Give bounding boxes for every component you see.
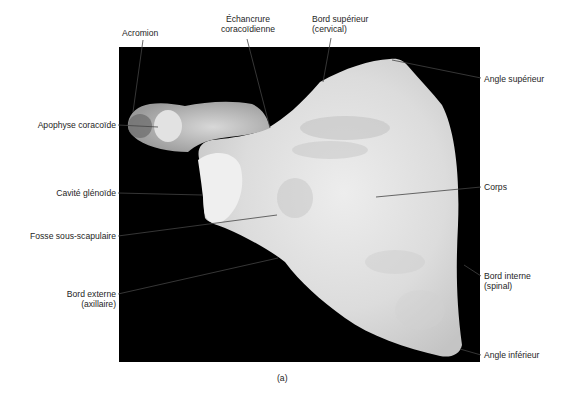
label-acromion: Acromion — [122, 28, 158, 38]
label-bord-superieur: Bord supérieur (cervical) — [312, 14, 368, 34]
label-bord-interne: Bord interne (spinal) — [484, 271, 531, 291]
label-fosse-sous-scapulaire: Fosse sous-scapulaire — [30, 231, 116, 241]
label-angle-inferieur: Angle inférieur — [484, 350, 539, 360]
label-echancrure-coracoidienne: Échancrure coracoïdienne — [216, 14, 280, 34]
scapula-figure: Acromion Échancrure coracoïdienne Bord s… — [0, 0, 573, 399]
scapula-photo-illustration — [0, 0, 573, 399]
label-apophyse-coracoide: Apophyse coracoïde — [38, 120, 116, 130]
figure-caption: (a) — [277, 373, 288, 383]
label-angle-superieur: Angle supérieur — [484, 74, 544, 84]
label-bord-externe: Bord externe (axillaire) — [67, 289, 116, 309]
coracoid-knob — [154, 110, 182, 142]
label-corps: Corps — [484, 182, 507, 192]
label-cavite-glenoide: Cavité glénoïde — [56, 188, 116, 198]
